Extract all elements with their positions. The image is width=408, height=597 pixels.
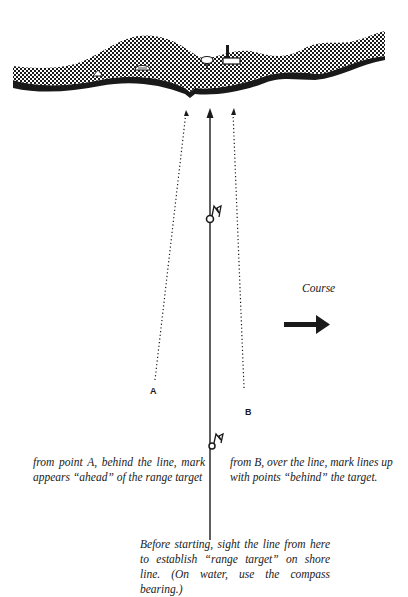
point-b-label: B bbox=[245, 407, 252, 417]
caption-point-b: from B, over the line, mark lines up wit… bbox=[230, 455, 402, 485]
course-label: Course bbox=[302, 282, 335, 294]
caption-before-starting: Before starting, sight the line from her… bbox=[140, 537, 330, 597]
caption-point-a: from point A, behind the line, mark appe… bbox=[33, 455, 205, 485]
point-a-label: A bbox=[150, 386, 157, 396]
